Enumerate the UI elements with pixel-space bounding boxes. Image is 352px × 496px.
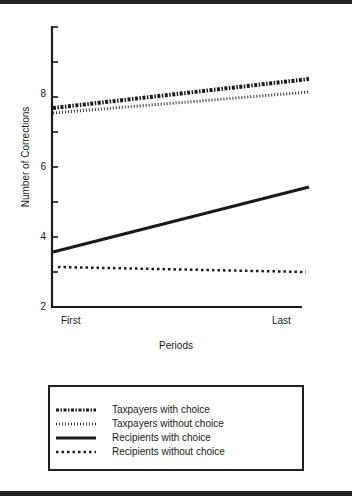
legend-item: Recipients with choice — [50, 431, 302, 445]
legend-label: Taxpayers without choice — [112, 417, 224, 431]
solid-line-swatch-icon — [56, 433, 96, 443]
fine-dotted-swatch-icon — [56, 419, 96, 429]
square-dotted-swatch-icon — [56, 447, 96, 457]
line-chart-plot — [0, 0, 352, 360]
dash-dot-swatch-icon — [56, 405, 96, 415]
y-axis-title: Number of Corrections — [20, 107, 31, 208]
series-taxpayers-with-choice — [53, 79, 309, 108]
legend-item: Recipients without choice — [50, 445, 302, 459]
legend-label: Recipients with choice — [112, 431, 211, 445]
legend: Taxpayers with choice Taxpayers without … — [48, 385, 304, 471]
legend-item: Taxpayers without choice — [50, 417, 302, 431]
y-tick-label-2: 2 — [30, 301, 46, 312]
y-tick-label-4: 4 — [30, 231, 46, 242]
x-tick-label-last: Last — [272, 315, 291, 326]
series-recipients-with-choice — [53, 187, 309, 252]
x-axis-title: Periods — [0, 340, 352, 351]
legend-item: Taxpayers with choice — [50, 403, 302, 417]
bottom-border — [0, 491, 352, 496]
legend-label: Taxpayers with choice — [112, 403, 210, 417]
legend-label: Recipients without choice — [112, 445, 225, 459]
x-tick-label-first: First — [61, 315, 80, 326]
series-recipients-without-choice — [58, 267, 306, 272]
y-tick-label-8: 8 — [30, 88, 46, 99]
y-tick-label-6: 6 — [30, 161, 46, 172]
